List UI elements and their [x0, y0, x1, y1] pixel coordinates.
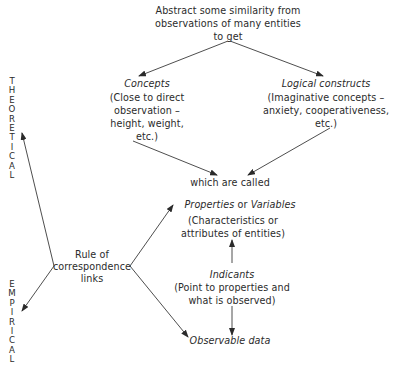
- observable-data: Observable data: [190, 334, 271, 347]
- research-concepts-diagram: Abstract some similarity from observatio…: [0, 0, 410, 367]
- logical-constructs-line3: etc.): [315, 117, 337, 130]
- arrow-top-to-concepts: [139, 41, 228, 76]
- variables-label: Variables: [251, 199, 296, 210]
- arrow-logical-to-called: [248, 128, 330, 175]
- which-are-called: which are called: [190, 176, 270, 189]
- arrow-rule-to-empirical: [22, 266, 54, 311]
- letter: L: [6, 355, 18, 364]
- properties-title: Properties or Variables: [184, 198, 295, 211]
- indicants-title: Indicants: [210, 268, 255, 281]
- letter: L: [6, 171, 18, 180]
- rule-line3: links: [81, 272, 103, 285]
- arrow-rule-to-observable: [130, 266, 188, 337]
- concepts-line2: observation –: [114, 104, 180, 117]
- properties-line2: attributes of entities): [181, 227, 285, 240]
- properties-line1: (Characteristics or: [188, 214, 278, 227]
- arrow-concepts-to-called: [133, 141, 217, 175]
- theoretical-label: T H E O R E T I C A L: [6, 77, 18, 180]
- empirical-label: E M P I R I C A L: [6, 280, 18, 365]
- concepts-line1: (Close to direct: [110, 91, 185, 104]
- top-text-line2: observations of many entities: [155, 17, 301, 30]
- indicants-line1: (Point to properties and: [174, 281, 290, 294]
- concepts-line3: height, weight,: [110, 117, 184, 130]
- top-text-line3: to get: [213, 30, 242, 43]
- properties-or: or: [237, 199, 247, 210]
- arrow-top-to-logical-constructs: [230, 41, 323, 76]
- logical-constructs-line2: anxiety, cooperativeness,: [263, 104, 389, 117]
- arrow-rule-to-properties: [130, 205, 173, 266]
- concepts-line4: etc.): [136, 130, 158, 143]
- arrow-rule-to-theoretical: [22, 133, 54, 266]
- properties-label: Properties: [184, 199, 234, 210]
- logical-constructs-line1: (Imaginative concepts –: [268, 91, 385, 104]
- top-text-line1: Abstract some similarity from: [155, 4, 300, 17]
- logical-constructs-title: Logical constructs: [282, 77, 371, 90]
- concepts-title: Concepts: [124, 77, 169, 90]
- indicants-line2: what is observed): [188, 294, 275, 307]
